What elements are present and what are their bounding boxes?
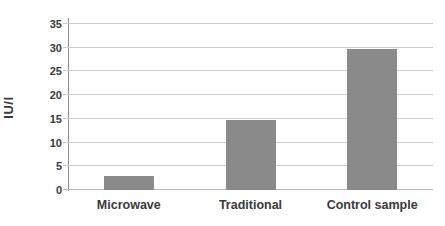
y-axis-title: IU/l xyxy=(1,73,16,143)
bar-traditional xyxy=(226,120,276,190)
x-category-label-traditional: Traditional xyxy=(186,198,316,212)
y-tick-label-25: 25 xyxy=(28,64,62,78)
y-tick-label-0: 0 xyxy=(28,183,62,197)
y-tick-label-20: 20 xyxy=(28,88,62,102)
gridline-y-35 xyxy=(63,23,433,24)
y-tick-label-30: 30 xyxy=(28,41,62,55)
y-tick-label-35: 35 xyxy=(28,17,62,31)
bar-control-sample xyxy=(347,49,397,190)
y-tick-label-5: 5 xyxy=(28,159,62,173)
bar-chart-figure: IU/l 05101520253035 MicrowaveTraditional… xyxy=(0,0,445,226)
x-category-label-control-sample: Control sample xyxy=(307,198,437,212)
plot-area xyxy=(68,24,433,190)
y-tick-label-10: 10 xyxy=(28,136,62,150)
gridline-y-30 xyxy=(63,47,433,48)
bar-microwave xyxy=(104,176,154,190)
y-tick-label-15: 15 xyxy=(28,112,62,126)
x-category-label-microwave: Microwave xyxy=(64,198,194,212)
